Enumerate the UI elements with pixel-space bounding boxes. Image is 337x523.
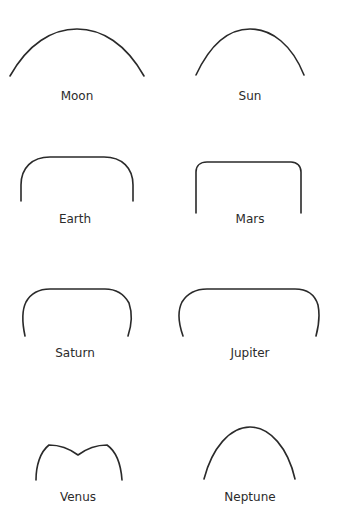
earth-shape	[21, 157, 133, 201]
mars-shape	[196, 162, 301, 213]
shapes-canvas	[0, 0, 337, 523]
moon-shape	[10, 29, 144, 76]
moon-label: Moon	[61, 89, 94, 103]
jupiter-label: Jupiter	[230, 346, 269, 360]
venus-label: Venus	[60, 490, 96, 504]
neptune-label: Neptune	[224, 490, 275, 504]
earth-label: Earth	[59, 212, 91, 226]
sun-label: Sun	[239, 89, 262, 103]
sun-shape	[196, 29, 304, 75]
jupiter-shape	[179, 289, 319, 336]
saturn-label: Saturn	[55, 346, 95, 360]
saturn-shape	[23, 289, 131, 336]
mars-label: Mars	[236, 212, 265, 226]
neptune-shape	[204, 427, 295, 479]
venus-shape	[36, 445, 122, 480]
